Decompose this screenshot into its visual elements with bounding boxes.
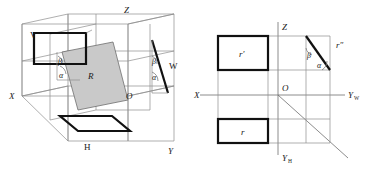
label-view-r: r: [241, 127, 245, 137]
label-axis-z: Z: [124, 5, 130, 15]
label-plane-r: R: [87, 71, 94, 81]
label-view-r-double-prime: r″: [336, 40, 344, 50]
panel-left-3d-box: V H W X Y Z O R α β α β: [8, 5, 178, 156]
label-axis-x: X: [8, 91, 15, 101]
label-right-origin-o: O: [282, 83, 289, 93]
figure-svg: V H W X Y Z O R α β α β: [0, 0, 367, 169]
label-alpha-front: α: [59, 71, 64, 80]
panel-right-multiview: X Z Y W Y H O r′ r r″ β α: [193, 22, 360, 164]
label-right-beta: β: [306, 51, 311, 60]
label-plane-w: W: [169, 61, 178, 71]
label-right-axis-z: Z: [282, 22, 288, 32]
label-beta-front: β: [57, 57, 62, 66]
label-right-axis-yh: Y H: [282, 153, 292, 164]
label-right-axis-yw: Y W: [348, 90, 360, 101]
miter-line-45: [278, 95, 348, 158]
label-axis-y: Y: [168, 146, 174, 156]
label-axis-yh-subscript: H: [288, 158, 292, 164]
label-plane-h: H: [84, 142, 91, 152]
top-projection-rect: [60, 116, 130, 131]
label-alpha-side: α: [152, 73, 157, 82]
label-plane-v: V: [30, 30, 37, 40]
label-beta-side: β: [151, 57, 156, 66]
label-right-axis-x: X: [193, 90, 200, 100]
side-projection-edge: [152, 40, 168, 93]
inclined-plane-r: [62, 42, 128, 110]
label-origin-o: O: [126, 91, 133, 101]
label-right-alpha: α: [317, 61, 322, 70]
label-axis-yw-subscript: W: [354, 95, 360, 101]
figure-canvas: V H W X Y Z O R α β α β: [0, 0, 367, 169]
